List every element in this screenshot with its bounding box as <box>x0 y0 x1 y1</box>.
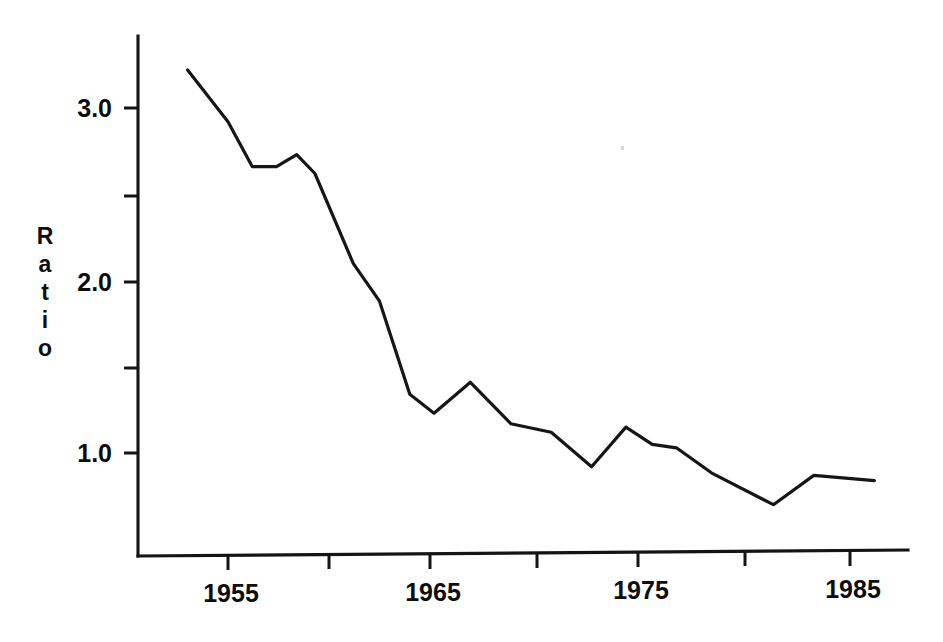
x-tick-label-1975: 1975 <box>613 576 669 604</box>
chart-figure: R a t i o 3.0 2.0 1.0 1955 1965 1975 198 <box>0 0 943 642</box>
x-tick-label-1985: 1985 <box>825 575 881 603</box>
x-tick-label-1965: 1965 <box>405 578 461 606</box>
y-tick-label-1-0: 1.0 <box>77 439 112 467</box>
plot-area: 3.0 2.0 1.0 1955 1965 1975 1985 <box>0 0 943 642</box>
y-tick-label-2-0: 2.0 <box>77 268 112 296</box>
x-tick-label-1955: 1955 <box>203 579 259 607</box>
y-tick-label-3-0: 3.0 <box>77 94 112 122</box>
x-axis-spine <box>138 550 908 556</box>
ratio-series-line <box>188 70 875 505</box>
